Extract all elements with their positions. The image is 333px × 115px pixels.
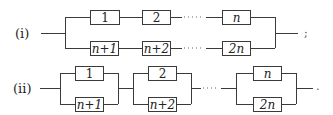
component-label: n+1: [77, 98, 102, 112]
component-box-1: 1: [76, 67, 104, 82]
parallel-pair-n: n 2n: [236, 67, 296, 113]
component-box-n-plus-2: n+2: [143, 42, 171, 57]
row-i: (i) ; 1 2 n: [15, 11, 308, 57]
component-label: n+2: [150, 98, 175, 112]
row-i-label: (i): [15, 26, 29, 41]
component-box-2: 2: [143, 11, 171, 26]
component-box-2n: 2n: [223, 42, 251, 57]
row-ii: (ii) 1 n+1: [13, 67, 320, 113]
component-label: 2: [153, 11, 161, 25]
component-box-1: 1: [91, 11, 120, 26]
component-label: n: [233, 11, 241, 25]
component-label: 2: [159, 67, 167, 81]
component-box-n-plus-2: n+2: [149, 98, 177, 113]
row-ii-label: (ii): [13, 81, 31, 96]
row-i-punct: ;: [304, 27, 308, 40]
component-label: n: [264, 67, 272, 81]
component-box-n-plus-1: n+1: [76, 98, 104, 113]
parallel-pair-1: 1 n+1: [60, 67, 118, 113]
component-label: 2n: [259, 98, 275, 112]
diagram-canvas: (i) ; 1 2 n: [0, 0, 333, 115]
component-box-2: 2: [149, 67, 177, 82]
component-box-n: n: [254, 67, 282, 82]
component-label: 2n: [228, 42, 244, 56]
component-label: 1: [101, 11, 109, 25]
parallel-pair-2: 2 n+2: [133, 67, 191, 113]
component-box-2n: 2n: [254, 98, 282, 113]
component-label: 1: [86, 67, 94, 81]
component-box-n: n: [223, 11, 251, 26]
component-box-n-plus-1: n+1: [91, 42, 119, 57]
component-label: n+2: [144, 42, 169, 56]
row-ii-punct: .: [316, 80, 320, 93]
component-label: n+1: [92, 42, 117, 56]
